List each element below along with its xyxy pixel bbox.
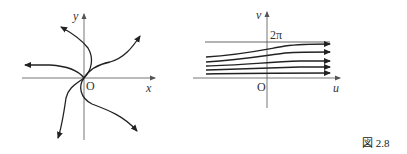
trajectory (206, 67, 330, 70)
trajectory (25, 65, 84, 78)
u-axis-label: u (333, 81, 339, 95)
figure-caption: 図 2.8 (362, 134, 390, 150)
trajectory (206, 61, 330, 66)
trajectory (206, 73, 330, 74)
x-axis-label: x (145, 81, 152, 95)
origin-label: O (257, 80, 266, 94)
level-label-2pi: 2π (270, 28, 282, 42)
figure-canvas: y O x v 2π O u (0, 0, 407, 154)
trajectory (61, 27, 91, 78)
v-axis-label: v (256, 8, 262, 22)
right-panel: v 2π O u (193, 8, 340, 108)
left-panel: y O x (22, 9, 155, 140)
y-axis-label: y (72, 9, 79, 23)
trajectory (84, 36, 140, 78)
origin-label: O (86, 79, 95, 93)
